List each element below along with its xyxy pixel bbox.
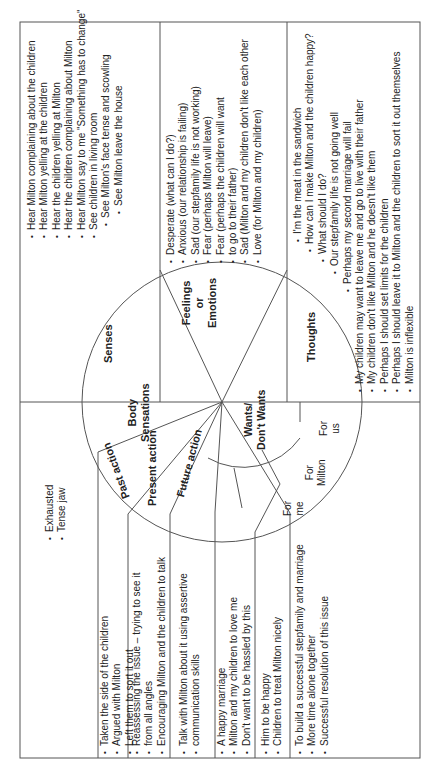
wants-item: Children to treat Milton nicely [272,617,284,754]
wants-for-milton-list: Him to be happy Children to treat Milton… [260,617,285,754]
segment-senses: Senses [102,324,115,363]
wants-item: A happy marriage [216,597,228,754]
past-action-item: Taken the side of the children [99,616,111,754]
present-action-list: Reassessing the issue – trying to see it… [131,557,168,754]
thoughts-item: Milton is inflexible [404,33,416,392]
thoughts-item: Perhaps I should leave it to Milton and … [391,33,403,392]
senses-item: Hear the children yelling at Milton [51,9,63,238]
feelings-item: Desperate (what can I do?) [165,39,177,263]
senses-list: Hear Milton complaining about the childr… [26,9,125,238]
wants-item: More time alone together [306,544,318,754]
thoughts-list: I'm the meat in the sandwich How can I m… [292,33,416,392]
wants-item: To build a successful stepfamily and mar… [294,544,306,754]
segment-for-me: For me [282,501,306,516]
wants-item: Don't want to be hassled by this [241,597,253,754]
thoughts-item: Perhaps my second marriage will fail [342,33,354,292]
feelings-item: Love (for Milton and my children) [252,39,264,263]
body-sensations-list: Exhausted Tense jaw [44,485,69,540]
thoughts-item: I'm the meat in the sandwich [292,33,304,242]
feelings-item: Anxious (our relationship is failing) [177,39,189,263]
future-action-item: Talk with Milton about it using assertiv… [178,573,190,754]
present-action-item: Reassessing the issue – trying to see it [131,557,143,754]
feelings-item: Fear (perhaps the children will want [215,39,227,263]
feelings-list: Desperate (what can I do?) Anxious (our … [165,39,264,263]
segment-for-us: For us [318,421,342,436]
senses-item: Hear Milton complaining about the childr… [26,9,38,238]
thoughts-item: What should I do? [317,33,329,262]
feelings-item: to go to their father) [227,39,239,263]
feelings-item: Sad (our stepfamily life is not working) [190,39,202,263]
body-item: Exhausted [44,485,56,540]
segment-feelings: Feelings or Emotions [180,278,219,328]
future-action-list: Talk with Milton about it using assertiv… [178,573,203,754]
wants-item: Him to be happy [260,617,272,754]
wants-item: Successful resolution of this issue [319,544,331,754]
thoughts-item: Our stepfamily life is not going well [329,33,341,274]
senses-item: See Milton's face tense and scowling [100,9,112,226]
thoughts-item: My children don't like Milton and he doe… [366,33,378,392]
feelings-item: Fear (perhaps Milton will leave) [202,39,214,263]
thoughts-item: How can I make Milton and the children h… [304,33,316,252]
wants-for-us-list: To build a successful stepfamily and mar… [294,544,331,754]
segment-for-milton: For Milton [304,459,328,486]
senses-item: Hear the children complaining about Milt… [63,9,75,238]
senses-item: See children in living room [88,9,100,238]
future-action-item: communication skills [190,573,202,754]
present-action-item: from all angles [143,557,155,754]
past-action-item: Argued with Milton [111,616,123,754]
feelings-item: Sad (Milton and my children don't like e… [239,39,251,263]
senses-item: See Milton leave the house [113,9,125,214]
thoughts-item: My children may want to leave me and go … [354,33,366,392]
present-action-item: Encouraging Milton and the children to t… [156,557,168,754]
segment-wants: Wants/ Don't Wants [242,390,268,450]
body-item: Tense jaw [56,485,68,540]
senses-item: Hear Milton say to me "Something has to … [76,9,88,238]
senses-item: Hear Milton yelling at the children [38,9,50,238]
segment-present-action: Present action [146,430,159,506]
thoughts-item: Perhaps I should set limits for the chil… [379,33,391,392]
wants-item: Milton and my children to love me [228,597,240,754]
wants-for-me-list: A happy marriage Milton and my children … [216,597,253,754]
awareness-wheel-diagram: Senses Feelings or Emotions Thoughts Bod… [0,0,424,768]
